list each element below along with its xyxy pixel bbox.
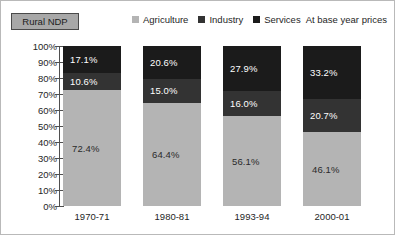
bar-1970-71: 17.1%10.6%72.4%: [63, 46, 121, 206]
chart-plot-area: 100%90%80%70%60%50%40%30%20%10%0% 17.1%1…: [1, 35, 395, 235]
bar-segment-services: 33.2%: [303, 46, 361, 99]
bar-segment-agriculture: 72.4%: [63, 90, 121, 206]
bar-segment-value: 27.9%: [223, 63, 257, 74]
y-tick-label: 80%: [13, 73, 57, 84]
legend-item-agriculture: Agriculture: [132, 14, 188, 25]
y-tick-mark: [55, 206, 64, 207]
bar-segment-value: 17.1%: [63, 54, 97, 65]
bar-segment-value: 64.4%: [143, 149, 179, 160]
y-tick-label: 40%: [13, 137, 57, 148]
bar-segment-agriculture: 46.1%: [303, 132, 361, 206]
legend-label-industry: Industry: [209, 14, 243, 25]
chart-header: Rural NDP Agriculture Industry Services …: [1, 1, 395, 35]
y-tick-label: 90%: [13, 57, 57, 68]
bar-segment-value: 20.7%: [303, 110, 337, 121]
bar-segment-value: 15.0%: [143, 85, 177, 96]
bar-segment-value: 20.6%: [143, 57, 177, 68]
bar-segment-industry: 10.6%: [63, 73, 121, 90]
y-tick-label: 20%: [13, 169, 57, 180]
bar-segment-value: 72.4%: [63, 143, 99, 154]
bar-segment-value: 10.6%: [63, 76, 97, 87]
bar-segment-value: 46.1%: [303, 164, 339, 175]
bar-segment-services: 20.6%: [143, 46, 201, 79]
legend-label-agriculture: Agriculture: [143, 14, 188, 25]
y-tick-label: 70%: [13, 89, 57, 100]
bar-1993-94: 27.9%16.0%56.1%: [223, 46, 281, 206]
series-title-box: Rural NDP: [11, 13, 79, 30]
bar-2000-01: 33.2%20.7%46.1%: [303, 46, 361, 206]
chart-legend: Agriculture Industry Services: [132, 14, 301, 25]
x-tick-label: 1980-81: [132, 211, 212, 222]
y-tick-label: 50%: [13, 121, 57, 132]
y-tick-label: 0%: [13, 201, 57, 212]
legend-item-services: Services: [253, 14, 300, 25]
bar-segment-industry: 20.7%: [303, 99, 361, 132]
bar-segment-industry: 15.0%: [143, 79, 201, 103]
legend-swatch-industry: [198, 16, 205, 23]
legend-item-industry: Industry: [198, 14, 243, 25]
bar-segment-agriculture: 64.4%: [143, 103, 201, 206]
bar-segment-services: 27.9%: [223, 46, 281, 91]
legend-label-services: Services: [264, 14, 300, 25]
chart-figure: Rural NDP Agriculture Industry Services …: [0, 0, 395, 235]
bar-segment-industry: 16.0%: [223, 91, 281, 117]
x-tick-label: 2000-01: [292, 211, 372, 222]
y-tick-label: 10%: [13, 185, 57, 196]
y-tick-label: 30%: [13, 153, 57, 164]
bar-segment-value: 16.0%: [223, 98, 257, 109]
bar-segment-value: 33.2%: [303, 67, 337, 78]
bar-1980-81: 20.6%15.0%64.4%: [143, 46, 201, 206]
x-tick-label: 1993-94: [212, 211, 292, 222]
bar-segment-agriculture: 56.1%: [223, 116, 281, 206]
y-tick-label: 100%: [13, 41, 57, 52]
series-title-label: Rural NDP: [22, 16, 67, 27]
legend-swatch-services: [253, 16, 260, 23]
x-tick-label: 1970-71: [52, 211, 132, 222]
bar-segment-value: 56.1%: [223, 156, 259, 167]
chart-annotation: At base year prices: [306, 14, 387, 25]
bar-segment-services: 17.1%: [63, 46, 121, 73]
legend-swatch-agriculture: [132, 16, 139, 23]
y-tick-label: 60%: [13, 105, 57, 116]
